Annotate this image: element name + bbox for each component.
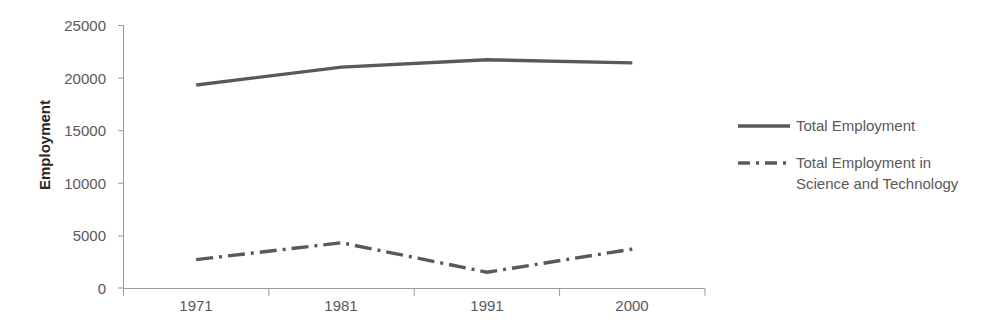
y-tick-label-5000: 5000	[73, 227, 106, 244]
chart-legend: Total Employment Total Employment in Sci…	[738, 117, 959, 192]
y-tick-label-0: 0	[98, 280, 106, 297]
legend-label-science-technology-line1: Total Employment in	[796, 154, 931, 171]
x-tick-label-1971: 1971	[179, 297, 212, 314]
employment-line-chart: Employment 25000 20000 15000 10000 5000 …	[0, 0, 997, 334]
y-tick-label-10000: 10000	[64, 175, 106, 192]
legend-label-total-employment: Total Employment	[796, 117, 916, 134]
x-tick-label-1991: 1991	[470, 297, 503, 314]
legend-label-science-technology-line2: Science and Technology	[796, 175, 959, 192]
series-line-total-employment	[196, 60, 632, 85]
y-tick-label-20000: 20000	[64, 70, 106, 87]
chart-canvas: Employment 25000 20000 15000 10000 5000 …	[0, 0, 997, 334]
y-tick-label-25000: 25000	[64, 17, 106, 34]
y-axis-title: Employment	[36, 100, 53, 190]
series-line-science-technology	[196, 243, 632, 272]
y-tick-label-15000: 15000	[64, 122, 106, 139]
x-tick-label-1981: 1981	[324, 297, 357, 314]
x-tick-label-2000: 2000	[615, 297, 648, 314]
